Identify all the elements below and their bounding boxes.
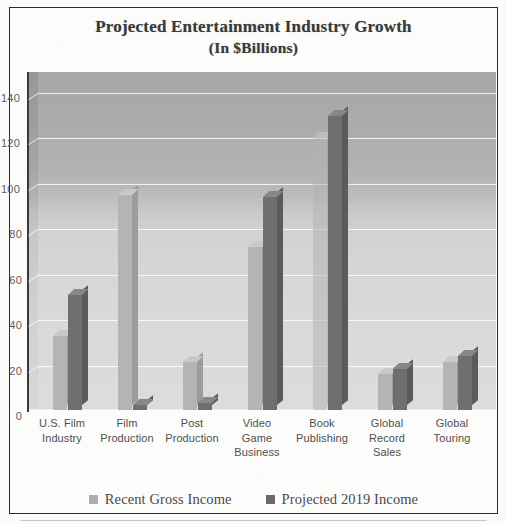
bar-recent-global-record-sales (378, 374, 392, 410)
bar-recent-film-production (118, 195, 132, 410)
chart-title: Projected Entertainment Industry Growth … (10, 16, 497, 58)
bar-projected-global-touring (458, 356, 472, 410)
gridline-120 (38, 138, 496, 139)
x-label-global-touring: Global Touring (417, 416, 487, 445)
legend-swatch-icon-recent (89, 495, 98, 504)
x-label-global-record-sales: Global Record Sales (352, 416, 422, 460)
x-label-film-production: Film Production (92, 416, 162, 445)
y-tick-100: 100 (0, 183, 20, 195)
plot-left-wall (29, 72, 38, 410)
x-axis-labels: U.S. Film Industry Film Production Post … (29, 416, 496, 482)
x-label-video-game-business: Video Game Business (222, 416, 292, 460)
legend-label-projected: Projected 2019 Income (282, 491, 419, 508)
y-tick-120: 120 (0, 137, 20, 149)
legend-divider (20, 520, 487, 521)
bar-recent-video-game-business (248, 247, 262, 410)
chart-title-line1: Projected Entertainment Industry Growth (10, 16, 497, 37)
y-tick-80: 80 (0, 228, 22, 240)
y-tick-0: 0 (0, 410, 22, 422)
bar-recent-book-publishing (313, 138, 327, 410)
chart-frame: Projected Entertainment Industry Growth … (9, 7, 498, 514)
y-tick-140: 140 (0, 92, 20, 104)
y-tick-40: 40 (0, 319, 22, 331)
chart-title-line2: (In $Billions) (10, 37, 497, 58)
legend-item-projected-2019-income: Projected 2019 Income (266, 491, 419, 508)
bar-projected-video-game-business (263, 197, 277, 410)
chart-legend: Recent Gross Income Projected 2019 Incom… (10, 491, 497, 508)
x-label-post-production: Post Production (157, 416, 227, 445)
bar-recent-post-production (183, 362, 197, 410)
x-label-book-publishing: Book Publishing (287, 416, 357, 445)
bar-recent-us-film-industry (53, 336, 67, 410)
x-label-us-film-industry: U.S. Film Industry (27, 416, 97, 445)
bar-projected-film-production (133, 405, 147, 410)
bar-projected-global-record-sales (393, 369, 407, 410)
bar-projected-post-production (198, 403, 212, 410)
y-tick-60: 60 (0, 274, 22, 286)
bar-projected-book-publishing (328, 116, 342, 410)
y-tick-20: 20 (0, 365, 22, 377)
legend-item-recent-gross-income: Recent Gross Income (89, 491, 232, 508)
bar-recent-global-touring (443, 362, 457, 410)
legend-label-recent: Recent Gross Income (105, 491, 232, 508)
gridline-140 (38, 93, 496, 94)
legend-swatch-icon-projected (266, 495, 275, 504)
gridline-100 (38, 184, 496, 185)
plot-area (29, 72, 496, 410)
chart-page: Projected Entertainment Industry Growth … (0, 0, 506, 524)
bar-projected-us-film-industry (68, 295, 82, 410)
